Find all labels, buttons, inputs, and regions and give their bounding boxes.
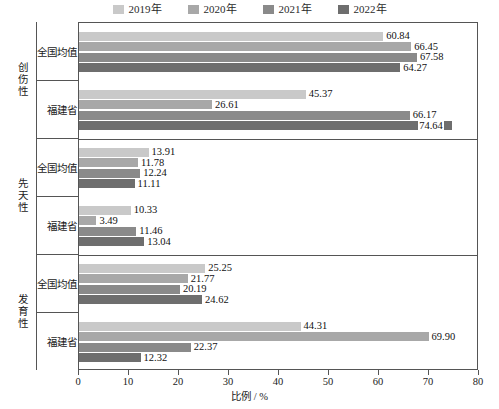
bar (79, 206, 131, 215)
bar (79, 90, 306, 99)
legend-label: 2019年 (129, 4, 162, 15)
bar (79, 111, 410, 120)
bar (79, 63, 400, 72)
group-label-column: 创伤性先天性发育性 (8, 22, 36, 370)
bar (79, 158, 138, 167)
bar-row: 20.19 (79, 285, 479, 294)
x-axis-tick-label: 40 (273, 376, 284, 387)
bar (79, 322, 301, 331)
legend-swatch-icon (263, 5, 274, 14)
category-label-text: 全国均值 (37, 276, 77, 291)
bar-row: 13.91 (79, 148, 479, 157)
bar-value-label: 26.61 (214, 100, 240, 111)
category-label-text: 全国均值 (37, 160, 77, 175)
bar-row: 11.78 (79, 158, 479, 167)
category-label: 全国均值 (37, 254, 79, 312)
bar-row: 74.64 (79, 121, 479, 130)
group-label: 发育性 (8, 254, 36, 370)
bar (79, 353, 141, 362)
category-label: 福建省 (37, 80, 79, 138)
legend-swatch-icon (113, 5, 124, 14)
bar (79, 216, 96, 225)
bar-row: 26.61 (79, 100, 479, 109)
bar (79, 227, 136, 236)
bar (79, 274, 188, 283)
bar (79, 179, 135, 188)
bar (79, 343, 191, 352)
bar-row: 66.17 (79, 111, 479, 120)
group-label-text: 先天性 (15, 178, 30, 214)
x-axis-tick-label: 30 (223, 376, 234, 387)
bar (79, 237, 144, 246)
bar (79, 148, 149, 157)
category-label-column: 全国均值福建省全国均值福建省全国均值福建省 (36, 22, 78, 370)
bar-row: 12.24 (79, 169, 479, 178)
bar (79, 295, 202, 304)
category-label: 福建省 (37, 196, 79, 254)
group-label-text: 发育性 (15, 294, 30, 330)
bar (79, 100, 212, 109)
x-axis-tick-label: 0 (75, 376, 80, 387)
x-axis-title: 比例 / % (0, 388, 499, 403)
bar-row: 45.37 (79, 90, 479, 99)
bar-value-label: 44.31 (303, 321, 329, 332)
category-label-text: 福建省 (47, 102, 77, 117)
category-label: 福建省 (37, 312, 79, 370)
legend-item: 2019年 (113, 4, 162, 15)
bar-row: 67.58 (79, 53, 479, 62)
bar-row: 22.37 (79, 343, 479, 352)
legend-swatch-icon (188, 5, 199, 14)
x-axis-tick-label: 50 (323, 376, 334, 387)
x-axis-tick-mark (228, 370, 229, 375)
legend-item: 2021年 (263, 4, 312, 15)
plot-area: 60.8466.4567.5864.2745.3726.6166.1774.64… (78, 22, 478, 370)
bar (79, 32, 383, 41)
bar-row: 69.90 (79, 332, 479, 341)
bar (79, 169, 140, 178)
bar-row: 3.49 (79, 216, 479, 225)
x-axis-tick-mark (128, 370, 129, 375)
x-axis-tick-label: 70 (423, 376, 434, 387)
group-label: 先天性 (8, 138, 36, 254)
x-axis-tick-mark (328, 370, 329, 375)
bar-chart: 2019年2020年2021年2022年 创伤性先天性发育性 全国均值福建省全国… (0, 0, 499, 409)
x-axis-tick-label: 20 (173, 376, 184, 387)
bar-value-label: 69.90 (431, 332, 457, 343)
bar (79, 332, 429, 341)
bar-row: 21.77 (79, 274, 479, 283)
bar-row: 60.84 (79, 32, 479, 41)
group-label-text: 创伤性 (15, 62, 30, 98)
legend-label: 2021年 (279, 4, 312, 15)
bar (79, 121, 452, 130)
x-axis-tick-mark (478, 370, 479, 375)
bar-row: 10.33 (79, 206, 479, 215)
x-axis-tick-label: 60 (373, 376, 384, 387)
bar-row: 44.31 (79, 322, 479, 331)
bar-row: 11.11 (79, 179, 479, 188)
x-axis-tick-label: 10 (123, 376, 134, 387)
bar-row: 13.04 (79, 237, 479, 246)
group-separator (79, 139, 477, 140)
category-label-text: 全国均值 (37, 44, 77, 59)
bar-row: 11.46 (79, 227, 479, 236)
bar-row: 66.45 (79, 42, 479, 51)
bar-value-label: 10.33 (133, 205, 159, 216)
x-axis-tick-mark (428, 370, 429, 375)
legend-item: 2020年 (188, 4, 237, 15)
legend-item: 2022年 (338, 4, 387, 15)
bar (79, 42, 411, 51)
bar-value-label: 24.62 (204, 295, 230, 306)
legend-label: 2020年 (204, 4, 237, 15)
bar-row: 64.27 (79, 63, 479, 72)
x-axis-tick-mark (178, 370, 179, 375)
bar-value-label: 45.37 (308, 89, 334, 100)
bar-value-label: 11.11 (137, 179, 162, 190)
bar-value-label: 3.49 (98, 216, 118, 227)
bar-value-label: 22.37 (193, 342, 219, 353)
chart-legend: 2019年2020年2021年2022年 (0, 4, 499, 15)
x-axis-tick-mark (78, 370, 79, 375)
bar (79, 285, 180, 294)
bar-row: 12.32 (79, 353, 479, 362)
legend-swatch-icon (338, 5, 349, 14)
bar-row: 24.62 (79, 295, 479, 304)
